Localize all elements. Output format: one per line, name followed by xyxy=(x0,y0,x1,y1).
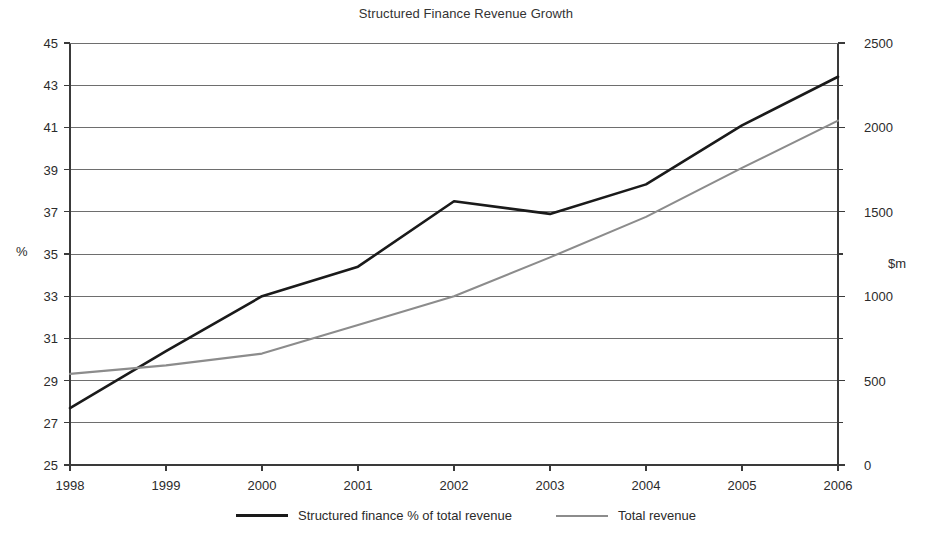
x-axis-tick-label: 2000 xyxy=(248,478,277,493)
x-axis-tick-label: 1999 xyxy=(152,478,181,493)
x-axis-tick-label: 2004 xyxy=(632,478,661,493)
right-axis-title: $m xyxy=(888,256,906,271)
left-axis-tick-label: 31 xyxy=(44,331,58,346)
left-axis-tick-label: 43 xyxy=(44,78,58,93)
right-axis-tick-label: 1000 xyxy=(864,289,893,304)
chart-legend: Structured finance % of total revenueTot… xyxy=(0,508,932,523)
left-axis-ticks: 2527293133353739414345 xyxy=(44,36,70,473)
x-axis-tick-label: 2006 xyxy=(824,478,853,493)
x-axis-ticks: 199819992000200120022003200420052006 xyxy=(56,465,853,493)
legend-swatch-secondary xyxy=(556,515,608,517)
x-axis-tick-label: 2001 xyxy=(344,478,373,493)
left-axis-tick-label: 37 xyxy=(44,205,58,220)
gridlines xyxy=(70,43,838,423)
right-axis-tick-label: 500 xyxy=(864,374,886,389)
series-line-primary xyxy=(70,77,838,408)
right-axis-tick-label: 2500 xyxy=(864,36,893,51)
x-axis-tick-label: 2005 xyxy=(728,478,757,493)
data-series xyxy=(70,77,838,408)
legend-swatch-primary xyxy=(236,514,288,517)
right-axis-tick-label: 0 xyxy=(864,458,871,473)
x-axis-tick-label: 2002 xyxy=(440,478,469,493)
legend-item[interactable]: Structured finance % of total revenue xyxy=(236,508,512,523)
series-line-secondary xyxy=(70,121,838,374)
axis-titles: %$m xyxy=(16,244,906,271)
left-axis-tick-label: 27 xyxy=(44,416,58,431)
legend-item-label: Structured finance % of total revenue xyxy=(298,508,512,523)
left-axis-tick-label: 45 xyxy=(44,36,58,51)
left-axis-tick-label: 25 xyxy=(44,458,58,473)
left-axis-title: % xyxy=(16,244,28,259)
x-axis-tick-label: 1998 xyxy=(56,478,85,493)
left-axis-tick-label: 39 xyxy=(44,163,58,178)
right-axis-tick-label: 2000 xyxy=(864,120,893,135)
legend-item-label: Total revenue xyxy=(618,508,696,523)
left-axis-tick-label: 29 xyxy=(44,374,58,389)
left-axis-tick-label: 33 xyxy=(44,289,58,304)
left-axis-tick-label: 35 xyxy=(44,247,58,262)
right-axis-tick-label: 1500 xyxy=(864,205,893,220)
right-axis-ticks: 05001000150020002500 xyxy=(838,36,893,473)
chart-plot-area: 2527293133353739414345 05001000150020002… xyxy=(0,0,932,536)
x-axis-tick-label: 2003 xyxy=(536,478,565,493)
chart-container: Structured Finance Revenue Growth 252729… xyxy=(0,0,932,536)
legend-item[interactable]: Total revenue xyxy=(556,508,696,523)
left-axis-tick-label: 41 xyxy=(44,120,58,135)
